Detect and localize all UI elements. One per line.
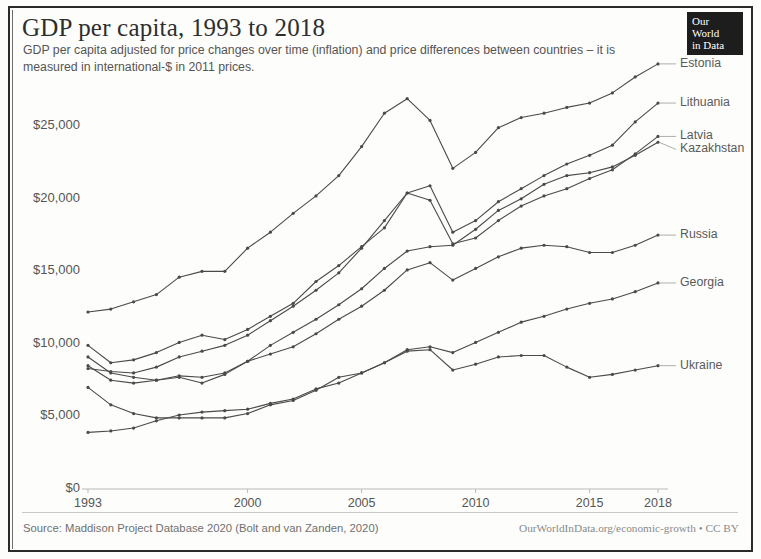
- data-point[interactable]: [132, 371, 135, 374]
- data-point[interactable]: [565, 307, 568, 310]
- data-point[interactable]: [109, 307, 112, 310]
- data-point[interactable]: [292, 399, 295, 402]
- data-point[interactable]: [246, 328, 249, 331]
- data-point[interactable]: [269, 344, 272, 347]
- data-point[interactable]: [428, 345, 431, 348]
- data-point[interactable]: [497, 126, 500, 129]
- data-point[interactable]: [155, 293, 158, 296]
- data-point[interactable]: [246, 334, 249, 337]
- data-point[interactable]: [314, 389, 317, 392]
- data-point[interactable]: [132, 300, 135, 303]
- data-point[interactable]: [383, 267, 386, 270]
- data-point[interactable]: [269, 231, 272, 234]
- data-point[interactable]: [223, 416, 226, 419]
- data-point[interactable]: [314, 194, 317, 197]
- data-point[interactable]: [360, 145, 363, 148]
- data-point[interactable]: [223, 270, 226, 273]
- data-point[interactable]: [200, 411, 203, 414]
- data-point[interactable]: [542, 315, 545, 318]
- data-point[interactable]: [520, 197, 523, 200]
- data-point[interactable]: [223, 338, 226, 341]
- data-point[interactable]: [269, 352, 272, 355]
- data-point[interactable]: [542, 174, 545, 177]
- data-point[interactable]: [611, 91, 614, 94]
- data-point[interactable]: [360, 247, 363, 250]
- data-point[interactable]: [155, 366, 158, 369]
- series-label-ukraine[interactable]: Ukraine: [680, 358, 722, 372]
- data-point[interactable]: [406, 249, 409, 252]
- data-point[interactable]: [611, 165, 614, 168]
- data-point[interactable]: [200, 376, 203, 379]
- data-point[interactable]: [542, 112, 545, 115]
- data-point[interactable]: [474, 267, 477, 270]
- data-point[interactable]: [451, 368, 454, 371]
- data-point[interactable]: [542, 183, 545, 186]
- data-point[interactable]: [451, 231, 454, 234]
- data-point[interactable]: [451, 351, 454, 354]
- data-point[interactable]: [360, 305, 363, 308]
- series-label-kazakhstan[interactable]: Kazakhstan: [680, 141, 744, 155]
- data-point[interactable]: [634, 290, 637, 293]
- data-point[interactable]: [337, 303, 340, 306]
- data-point[interactable]: [132, 381, 135, 384]
- data-point[interactable]: [520, 116, 523, 119]
- data-point[interactable]: [474, 219, 477, 222]
- data-point[interactable]: [588, 154, 591, 157]
- data-point[interactable]: [428, 348, 431, 351]
- data-point[interactable]: [246, 360, 249, 363]
- data-point[interactable]: [269, 315, 272, 318]
- data-point[interactable]: [588, 171, 591, 174]
- data-point[interactable]: [178, 413, 181, 416]
- data-point[interactable]: [634, 120, 637, 123]
- data-point[interactable]: [588, 302, 591, 305]
- series-label-latvia[interactable]: Latvia: [680, 128, 713, 142]
- data-point[interactable]: [520, 354, 523, 357]
- data-point[interactable]: [406, 350, 409, 353]
- series-label-georgia[interactable]: Georgia: [680, 275, 724, 289]
- data-point[interactable]: [520, 247, 523, 250]
- data-point[interactable]: [451, 167, 454, 170]
- data-point[interactable]: [588, 177, 591, 180]
- data-point[interactable]: [109, 361, 112, 364]
- data-point[interactable]: [611, 144, 614, 147]
- data-point[interactable]: [634, 368, 637, 371]
- data-point[interactable]: [223, 373, 226, 376]
- data-point[interactable]: [200, 381, 203, 384]
- data-point[interactable]: [474, 151, 477, 154]
- data-point[interactable]: [109, 403, 112, 406]
- data-point[interactable]: [634, 244, 637, 247]
- data-point[interactable]: [292, 302, 295, 305]
- data-point[interactable]: [86, 344, 89, 347]
- data-point[interactable]: [565, 366, 568, 369]
- data-point[interactable]: [474, 363, 477, 366]
- series-label-lithuania[interactable]: Lithuania: [680, 95, 730, 109]
- data-point[interactable]: [565, 187, 568, 190]
- data-point[interactable]: [132, 412, 135, 415]
- data-point[interactable]: [109, 370, 112, 373]
- series-line-lithuania[interactable]: [88, 103, 658, 363]
- data-point[interactable]: [200, 350, 203, 353]
- data-point[interactable]: [588, 251, 591, 254]
- data-point[interactable]: [292, 345, 295, 348]
- data-point[interactable]: [634, 152, 637, 155]
- data-point[interactable]: [337, 376, 340, 379]
- data-point[interactable]: [132, 376, 135, 379]
- data-point[interactable]: [292, 212, 295, 215]
- data-point[interactable]: [406, 191, 409, 194]
- data-point[interactable]: [542, 194, 545, 197]
- data-point[interactable]: [383, 289, 386, 292]
- data-point[interactable]: [200, 270, 203, 273]
- data-point[interactable]: [497, 209, 500, 212]
- data-point[interactable]: [223, 344, 226, 347]
- data-point[interactable]: [337, 271, 340, 274]
- data-point[interactable]: [314, 318, 317, 321]
- data-point[interactable]: [360, 287, 363, 290]
- data-point[interactable]: [474, 236, 477, 239]
- data-point[interactable]: [428, 119, 431, 122]
- data-point[interactable]: [246, 408, 249, 411]
- series-line-latvia[interactable]: [88, 136, 658, 372]
- data-point[interactable]: [360, 371, 363, 374]
- data-point[interactable]: [383, 219, 386, 222]
- data-point[interactable]: [246, 412, 249, 415]
- series-label-russia[interactable]: Russia: [680, 227, 718, 241]
